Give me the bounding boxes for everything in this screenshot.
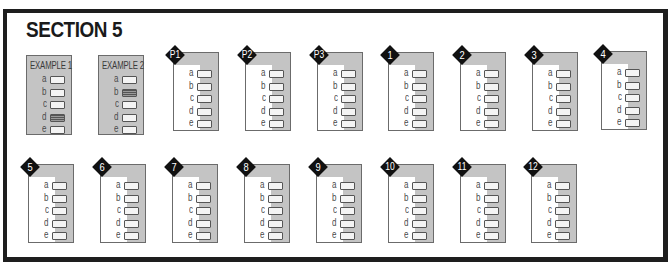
- answer-bubble[interactable]: [625, 82, 640, 90]
- answer-bubble[interactable]: [52, 232, 67, 240]
- answer-bubble[interactable]: [412, 182, 427, 190]
- answer-bubble[interactable]: [122, 76, 137, 84]
- answer-bubble[interactable]: [50, 89, 65, 97]
- answer-bubble[interactable]: [52, 207, 67, 215]
- answer-bubble[interactable]: [412, 120, 427, 128]
- question-number: 3: [526, 46, 541, 64]
- answer-bubble[interactable]: [556, 95, 571, 103]
- answer-bubble[interactable]: [556, 108, 571, 116]
- answer-bubble[interactable]: [269, 95, 284, 103]
- answer-bubble[interactable]: [412, 220, 427, 228]
- answer-bubble[interactable]: [197, 120, 212, 128]
- answer-bubble[interactable]: [484, 95, 499, 103]
- option-letter: e: [618, 116, 622, 128]
- answer-bubble[interactable]: [340, 195, 355, 203]
- option-letter: a: [477, 67, 481, 79]
- answer-bubble[interactable]: [122, 101, 137, 109]
- answer-bubble[interactable]: [556, 83, 571, 91]
- answer-bubble[interactable]: [52, 220, 67, 228]
- answer-bubble[interactable]: [484, 220, 499, 228]
- answer-bubble[interactable]: [556, 70, 571, 78]
- answer-bubble[interactable]: [625, 119, 640, 127]
- answer-bubble[interactable]: [124, 232, 139, 240]
- option-letter: c: [189, 204, 193, 216]
- option-letter: e: [45, 229, 49, 241]
- answer-bubble[interactable]: [341, 83, 356, 91]
- answer-bubble[interactable]: [340, 207, 355, 215]
- answer-bubble[interactable]: [484, 70, 499, 78]
- answer-bubble[interactable]: [625, 107, 640, 115]
- answer-bubble[interactable]: [124, 220, 139, 228]
- answer-bubble[interactable]: [341, 108, 356, 116]
- answer-bubble[interactable]: [555, 232, 570, 240]
- option-letter: c: [190, 92, 194, 104]
- answer-bubble[interactable]: [412, 95, 427, 103]
- answer-bubble[interactable]: [269, 70, 284, 78]
- answer-bubble[interactable]: [340, 220, 355, 228]
- answer-bubble[interactable]: [50, 76, 65, 84]
- answer-bubble[interactable]: [555, 207, 570, 215]
- answer-bubble[interactable]: [412, 108, 427, 116]
- answer-bubble[interactable]: [196, 182, 211, 190]
- answer-bubble[interactable]: [484, 120, 499, 128]
- answer-bubble[interactable]: [124, 207, 139, 215]
- answer-bubble[interactable]: [484, 83, 499, 91]
- answer-bubble[interactable]: [340, 232, 355, 240]
- answer-bubble[interactable]: [341, 70, 356, 78]
- answer-bubble[interactable]: [197, 70, 212, 78]
- answer-bubble[interactable]: [268, 195, 283, 203]
- answer-bubble[interactable]: [50, 101, 65, 109]
- answer-bubble[interactable]: [412, 70, 427, 78]
- answer-bubble[interactable]: [412, 195, 427, 203]
- answer-bubble[interactable]: [197, 95, 212, 103]
- answer-bubble[interactable]: [340, 182, 355, 190]
- answer-bubble-filled[interactable]: [122, 89, 137, 97]
- answer-bubble[interactable]: [197, 108, 212, 116]
- answer-bubble[interactable]: [268, 232, 283, 240]
- answer-bubble-filled[interactable]: [50, 114, 65, 122]
- answer-bubble[interactable]: [625, 94, 640, 102]
- answer-bubble[interactable]: [50, 126, 65, 134]
- answer-bubble[interactable]: [412, 207, 427, 215]
- answer-bubble[interactable]: [122, 126, 137, 134]
- answer-bubble[interactable]: [268, 207, 283, 215]
- answer-bubble[interactable]: [484, 195, 499, 203]
- answer-bubble[interactable]: [196, 220, 211, 228]
- answer-bubble[interactable]: [269, 83, 284, 91]
- answer-bubble[interactable]: [122, 114, 137, 122]
- answer-bubble[interactable]: [341, 120, 356, 128]
- answer-bubble[interactable]: [555, 182, 570, 190]
- answer-bubble[interactable]: [196, 195, 211, 203]
- answer-option-c: c: [389, 93, 433, 105]
- question-number-badge: 9: [309, 158, 327, 176]
- answer-bubble[interactable]: [268, 220, 283, 228]
- answer-bubble[interactable]: [196, 232, 211, 240]
- answer-bubble[interactable]: [412, 83, 427, 91]
- answer-bubble[interactable]: [484, 182, 499, 190]
- answer-bubble[interactable]: [52, 182, 67, 190]
- answer-bubble[interactable]: [124, 195, 139, 203]
- answer-bubble[interactable]: [555, 220, 570, 228]
- option-letter: e: [115, 123, 119, 135]
- answer-option-e: e: [532, 230, 576, 242]
- answer-bubble[interactable]: [484, 232, 499, 240]
- answer-option-b: b: [246, 81, 290, 93]
- answer-bubble[interactable]: [556, 120, 571, 128]
- answer-bubble[interactable]: [412, 232, 427, 240]
- answer-bubble[interactable]: [484, 108, 499, 116]
- option-letter: a: [618, 66, 622, 78]
- answer-bubble[interactable]: [625, 69, 640, 77]
- answer-bubble[interactable]: [555, 195, 570, 203]
- answer-bubble[interactable]: [484, 207, 499, 215]
- answer-bubble[interactable]: [341, 95, 356, 103]
- answer-bubble[interactable]: [269, 120, 284, 128]
- answer-bubble[interactable]: [268, 182, 283, 190]
- option-letter: c: [549, 92, 553, 104]
- answer-bubble[interactable]: [52, 195, 67, 203]
- answer-bubble[interactable]: [196, 207, 211, 215]
- answer-bubble[interactable]: [124, 182, 139, 190]
- option-letter: a: [189, 179, 193, 191]
- answer-bubble[interactable]: [269, 108, 284, 116]
- answer-bubble[interactable]: [197, 83, 212, 91]
- question-number: 12: [525, 158, 540, 176]
